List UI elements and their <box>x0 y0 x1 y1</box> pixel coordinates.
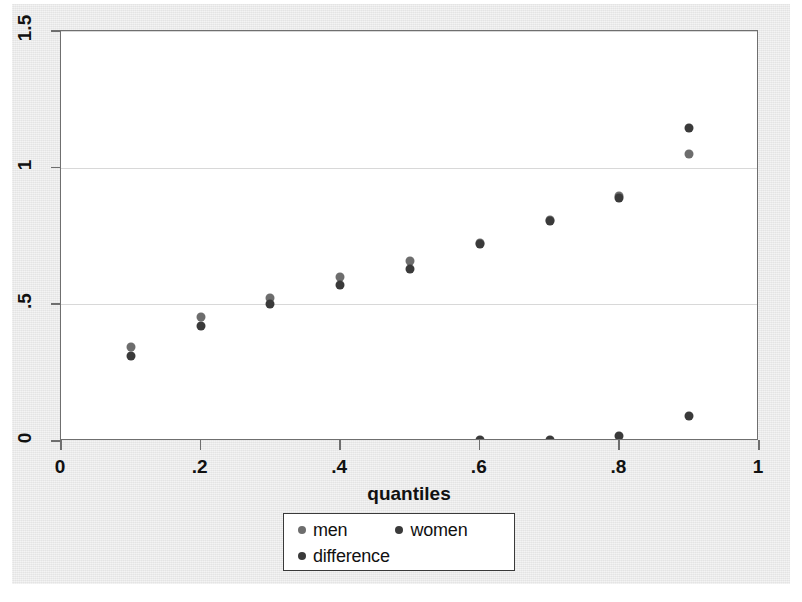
data-point-men <box>126 342 135 351</box>
x-tick-label: .6 <box>459 456 499 478</box>
data-point-women <box>545 216 554 225</box>
legend-label-men: men <box>313 520 347 541</box>
data-point-women <box>266 300 275 309</box>
y-tick-mark <box>51 440 60 442</box>
chart-legend: men women difference <box>283 513 515 571</box>
data-point-women <box>685 124 694 133</box>
legend-row-1: men women <box>284 517 514 543</box>
x-tick-label: 1 <box>738 456 778 478</box>
plot-area <box>61 31 757 439</box>
gridline-y-.5 <box>61 304 757 305</box>
y-tick-mark <box>51 30 60 32</box>
legend-item-women[interactable]: women <box>381 520 467 541</box>
legend-row-2: difference <box>284 543 514 569</box>
x-axis-title: quantiles <box>60 483 758 505</box>
data-point-women <box>196 322 205 331</box>
y-tick-mark <box>51 303 60 305</box>
data-point-women <box>336 281 345 290</box>
y-tick-label: .5 <box>8 290 42 312</box>
y-tick-label: 0 <box>8 427 42 449</box>
legend-marker-difference-icon <box>298 552 306 560</box>
legend-item-difference[interactable]: difference <box>284 546 390 567</box>
x-tick-mark <box>60 440 62 450</box>
data-point-men <box>685 150 694 159</box>
x-tick-mark <box>618 440 620 450</box>
x-tick-label: .2 <box>180 456 220 478</box>
y-tick-label: 1 <box>8 154 42 176</box>
gridline-y-1 <box>61 168 757 169</box>
x-tick-mark <box>479 440 481 450</box>
y-tick-mark <box>51 167 60 169</box>
data-point-women <box>615 193 624 202</box>
data-point-women <box>126 352 135 361</box>
data-point-difference <box>475 436 484 439</box>
data-point-difference <box>545 435 554 439</box>
x-tick-mark <box>758 440 760 450</box>
legend-marker-men-icon <box>298 526 306 534</box>
x-tick-mark <box>200 440 202 450</box>
legend-label-women: women <box>410 520 467 541</box>
x-tick-label: .4 <box>319 456 359 478</box>
y-tick-label: 1.5 <box>8 17 42 39</box>
legend-label-difference: difference <box>313 546 390 567</box>
x-tick-label: .8 <box>598 456 638 478</box>
data-point-difference <box>685 412 694 421</box>
gridline-y-1.5 <box>61 31 757 32</box>
x-tick-label: 0 <box>40 456 80 478</box>
chart-title <box>0 0 802 5</box>
chart-figure: 0.511.50.2.4.6.81 quantiles men women di… <box>0 0 802 602</box>
legend-item-men[interactable]: men <box>284 520 347 541</box>
legend-marker-women-icon <box>395 526 403 534</box>
plot-frame <box>60 30 758 440</box>
data-point-difference <box>615 431 624 439</box>
data-point-women <box>475 240 484 249</box>
x-tick-mark <box>339 440 341 450</box>
data-point-men <box>196 312 205 321</box>
data-point-women <box>406 264 415 273</box>
